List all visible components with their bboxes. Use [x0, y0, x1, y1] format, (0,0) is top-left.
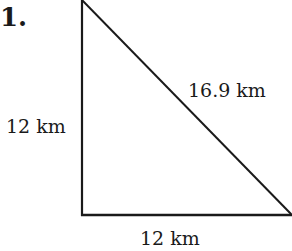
left-side-label: 12 km: [6, 115, 66, 137]
bottom-side-label: 12 km: [140, 227, 200, 249]
hypotenuse-line: [82, 0, 292, 215]
hypotenuse-label: 16.9 km: [188, 79, 266, 101]
